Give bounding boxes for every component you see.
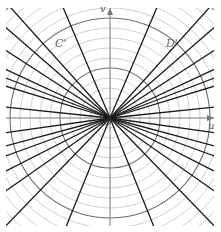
ray-line [110,60,221,118]
origin-label: O [104,118,111,127]
v-axis-arrow-icon [107,8,113,15]
u-axis-label: u [208,121,214,131]
ray-circle-plot [0,0,221,232]
ray-line [0,0,110,118]
uv-plane-diagram: v u O C' D' [0,0,221,232]
curve-d-prime-label: D' [166,38,178,49]
curve-c-prime-label: C' [55,38,66,49]
v-axis-label: v [100,4,106,14]
ray-line [0,118,110,232]
ray-line [110,0,221,118]
ray-line [0,60,110,118]
